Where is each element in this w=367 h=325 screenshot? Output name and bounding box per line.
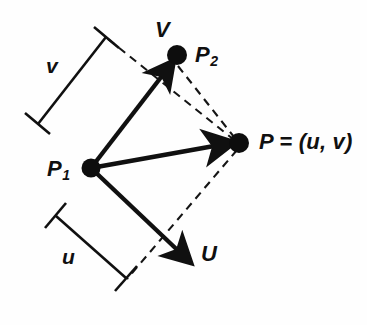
point-dot-p — [229, 133, 249, 153]
label-point-p-equation: P = (u, v) — [259, 131, 352, 153]
label-point-p1-subscript: 1 — [62, 167, 70, 183]
vector-u-arrow — [91, 168, 189, 261]
point-dot-p2 — [167, 45, 187, 65]
bracket-v — [25, 27, 119, 134]
vector-p-arrow — [91, 143, 231, 168]
bracket-u-cap-start — [45, 203, 66, 228]
label-point-p2: P2 — [195, 44, 218, 68]
label-vector-u: U — [201, 243, 217, 265]
bracket-v-cap-start — [25, 113, 50, 134]
label-vector-v: V — [155, 19, 170, 41]
bracket-u — [45, 203, 137, 291]
bracket-v-bar — [38, 37, 106, 124]
label-v-component: v — [46, 55, 58, 76]
vector-v-arrow — [91, 63, 172, 168]
label-point-p1: P1 — [47, 158, 70, 182]
dashed-line-p-to-u — [127, 150, 237, 279]
point-dot-p1 — [82, 159, 101, 178]
solid-vectors — [91, 63, 231, 261]
label-point-p2-subscript: 2 — [210, 53, 218, 69]
label-point-p2-base: P — [195, 42, 210, 67]
point-markers — [82, 45, 250, 178]
label-u-component: u — [62, 246, 75, 267]
label-point-p1-base: P — [47, 156, 62, 181]
figure-canvas: v u V U P1 P2 P = (u, v) — [0, 0, 367, 325]
bracket-v-cap-end — [94, 27, 119, 48]
